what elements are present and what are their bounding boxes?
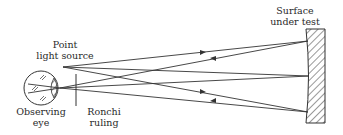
surface-label: Surface under test <box>260 5 330 27</box>
label-line: Observing <box>14 106 68 117</box>
arrow-icon <box>200 50 206 55</box>
label-line: Surface <box>260 5 330 16</box>
label-line: Point <box>34 39 96 50</box>
ronchi-test-diagram: Point light source Surface under test Ob… <box>0 0 343 135</box>
label-line: light source <box>34 50 96 61</box>
label-line: ruling <box>84 117 124 128</box>
label-line: under test <box>260 16 330 27</box>
arrow-icon <box>210 56 216 61</box>
eye-label: Observing eye <box>14 106 68 128</box>
ronchi-label: Ronchi ruling <box>84 106 124 128</box>
point-source-label: Point light source <box>34 39 96 61</box>
label-line: Ronchi <box>84 106 124 117</box>
label-line: eye <box>14 117 68 128</box>
observing-eye <box>24 71 58 105</box>
